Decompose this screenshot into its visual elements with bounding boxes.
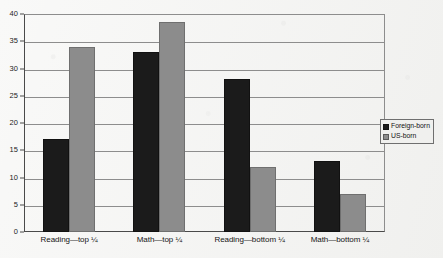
bar-foreign-born (314, 161, 340, 232)
x-axis-tick-label: Math—bottom ¼ (311, 236, 370, 245)
x-axis-tick-label: Math—top ¼ (137, 236, 182, 245)
bar-us-born (69, 47, 95, 232)
bar-group (224, 14, 276, 232)
y-axis-tick-label: 35 (9, 38, 18, 46)
bars-layer (24, 14, 385, 232)
bar-us-born (159, 22, 185, 232)
gray-square-icon (383, 134, 389, 140)
legend-item-foreign-born: Foreign-born (383, 122, 430, 131)
bar-foreign-born (133, 52, 159, 232)
bar-group (133, 14, 185, 232)
y-axis-tick-label: 10 (9, 174, 18, 182)
bar-us-born (340, 194, 366, 232)
bar-us-born (250, 167, 276, 232)
x-axis-tick-label: Reading—bottom ¼ (214, 236, 284, 245)
y-axis-tick-label: 0 (14, 228, 18, 236)
y-axis-tick-label: 5 (14, 201, 18, 209)
legend-item-us-born: US-born (383, 132, 430, 141)
y-axis-tick-label: 15 (9, 147, 18, 155)
bar-foreign-born (224, 79, 250, 232)
black-square-icon (383, 124, 389, 130)
y-axis-tick-label: 20 (9, 119, 18, 127)
bar-foreign-born (43, 139, 69, 232)
grouped-bar-chart: 0510152025303540 Reading—top ¼Math—top ¼… (0, 0, 443, 258)
y-axis-tick-label: 25 (9, 92, 18, 100)
chart-legend: Foreign-born US-born (380, 119, 434, 144)
x-axis-tick-label: Reading—top ¼ (41, 236, 98, 245)
y-axis: 0510152025303540 (0, 0, 24, 246)
y-axis-tick-label: 30 (9, 65, 18, 73)
legend-item-label: US-born (391, 133, 416, 140)
bar-group (314, 14, 366, 232)
bar-group (43, 14, 95, 232)
x-axis: Reading—top ¼Math—top ¼Reading—bottom ¼M… (24, 236, 385, 256)
legend-item-label: Foreign-born (391, 123, 430, 130)
y-axis-tick-label: 40 (9, 10, 18, 18)
